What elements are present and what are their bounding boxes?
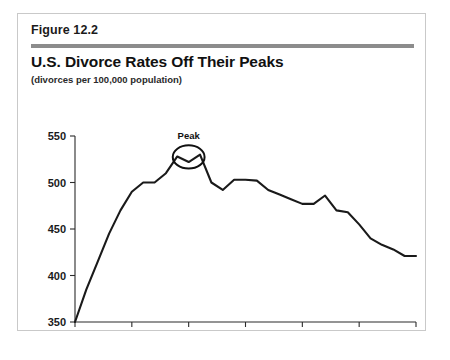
y-tick-label: 350: [48, 316, 66, 328]
chart-title: U.S. Divorce Rates Off Their Peaks: [31, 53, 283, 71]
y-tick-label: 550: [48, 130, 66, 142]
y-tick-label: 400: [48, 270, 66, 282]
y-axis-tick-labels: 350400450500550: [48, 130, 66, 328]
y-tick-label: 450: [48, 223, 66, 235]
divorce-rate-series: [75, 155, 416, 322]
y-tick-label: 500: [48, 177, 66, 189]
x-axis-tick-marks: [75, 322, 416, 327]
y-axis-tick-marks: [70, 136, 75, 322]
figure-label: Figure 12.2: [31, 23, 98, 37]
figure-card: Figure 12.2 U.S. Divorce Rates Off Their…: [17, 13, 426, 331]
title-divider: [31, 44, 414, 48]
line-chart-svg: 350400450500550 197019751980198519901995…: [18, 92, 425, 330]
peak-annotation-label: Peak: [178, 130, 201, 141]
chart-subtitle: (divorces per 100,000 population): [31, 74, 182, 85]
plot-area: 350400450500550 197019751980198519901995…: [18, 92, 425, 330]
